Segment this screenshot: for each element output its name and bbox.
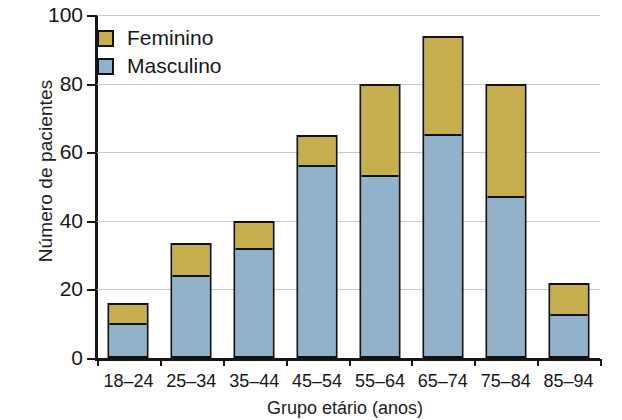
bar-slot [286, 15, 349, 358]
bar-segment-feminino [550, 285, 587, 315]
x-tick-mark [160, 359, 162, 366]
bar-segment-feminino [236, 223, 273, 248]
x-tick-label: 55–64 [355, 371, 405, 392]
legend-swatch-icon [97, 58, 114, 75]
legend-swatch-icon [97, 30, 114, 47]
stacked-bar[interactable] [485, 84, 526, 358]
bar-segment-feminino [361, 86, 398, 176]
x-tick-label: 18–24 [103, 371, 153, 392]
stacked-bar[interactable] [548, 283, 589, 358]
y-tick-label: 40 [60, 209, 83, 233]
bar-slot [411, 15, 474, 358]
bar-segment-masculino [236, 248, 273, 356]
bar-segment-feminino [110, 305, 147, 323]
x-tick-mark [474, 359, 476, 366]
stacked-bar[interactable] [234, 221, 275, 358]
bar-segment-masculino [361, 175, 398, 356]
y-tick-mark [87, 358, 96, 360]
x-tick-mark [349, 359, 351, 366]
x-tick-mark [223, 359, 225, 366]
x-tick-mark [97, 359, 99, 366]
y-tick-label: 100 [48, 3, 83, 27]
stacked-bar[interactable] [422, 36, 463, 358]
x-axis-line [95, 358, 600, 361]
bar-segment-masculino [424, 134, 461, 356]
stacked-bar[interactable] [359, 84, 400, 358]
legend: FemininoMasculino [97, 24, 222, 80]
y-tick-label: 80 [60, 72, 83, 96]
y-tick-mark [87, 289, 96, 291]
bar-segment-feminino [173, 245, 210, 275]
x-tick-mark [600, 359, 602, 366]
x-tick-label: 45–54 [292, 371, 342, 392]
x-tick-mark [537, 359, 539, 366]
stacked-bar[interactable] [171, 243, 212, 358]
bar-segment-feminino [299, 137, 336, 165]
bar-slot [349, 15, 412, 358]
y-tick-label: 60 [60, 140, 83, 164]
bar-segment-masculino [173, 275, 210, 356]
x-tick-mark [411, 359, 413, 366]
x-tick-label: 65–74 [418, 371, 468, 392]
legend-item-label: Feminino [127, 26, 213, 50]
bar-slot [537, 15, 600, 358]
bar-segment-feminino [424, 38, 461, 135]
y-tick-label: 0 [71, 346, 83, 370]
y-tick-mark [87, 152, 96, 154]
bar-segment-masculino [550, 314, 587, 356]
stacked-bar[interactable] [297, 135, 338, 358]
y-tick-mark [87, 15, 96, 17]
chart-figure: Número de pacientes 020406080100 18–2425… [0, 0, 622, 420]
legend-item-label: Masculino [127, 54, 222, 78]
x-tick-label: 75–84 [481, 371, 531, 392]
x-axis-title: Grupo etário (anos) [95, 398, 595, 419]
legend-item[interactable]: Masculino [97, 52, 222, 80]
bar-segment-masculino [299, 165, 336, 356]
stacked-bar[interactable] [108, 303, 149, 358]
x-tick-label: 35–44 [229, 371, 279, 392]
bar-segment-masculino [110, 323, 147, 356]
x-tick-label: 25–34 [166, 371, 216, 392]
y-axis-title: Número de pacientes [35, 21, 57, 321]
y-tick-mark [87, 221, 96, 223]
bar-slot [474, 15, 537, 358]
legend-item[interactable]: Feminino [97, 24, 222, 52]
bar-segment-masculino [487, 196, 524, 356]
x-tick-mark [286, 359, 288, 366]
x-tick-label: 85–94 [544, 371, 594, 392]
bar-slot [223, 15, 286, 358]
bar-segment-feminino [487, 86, 524, 196]
y-tick-mark [87, 84, 96, 86]
y-tick-label: 20 [60, 277, 83, 301]
